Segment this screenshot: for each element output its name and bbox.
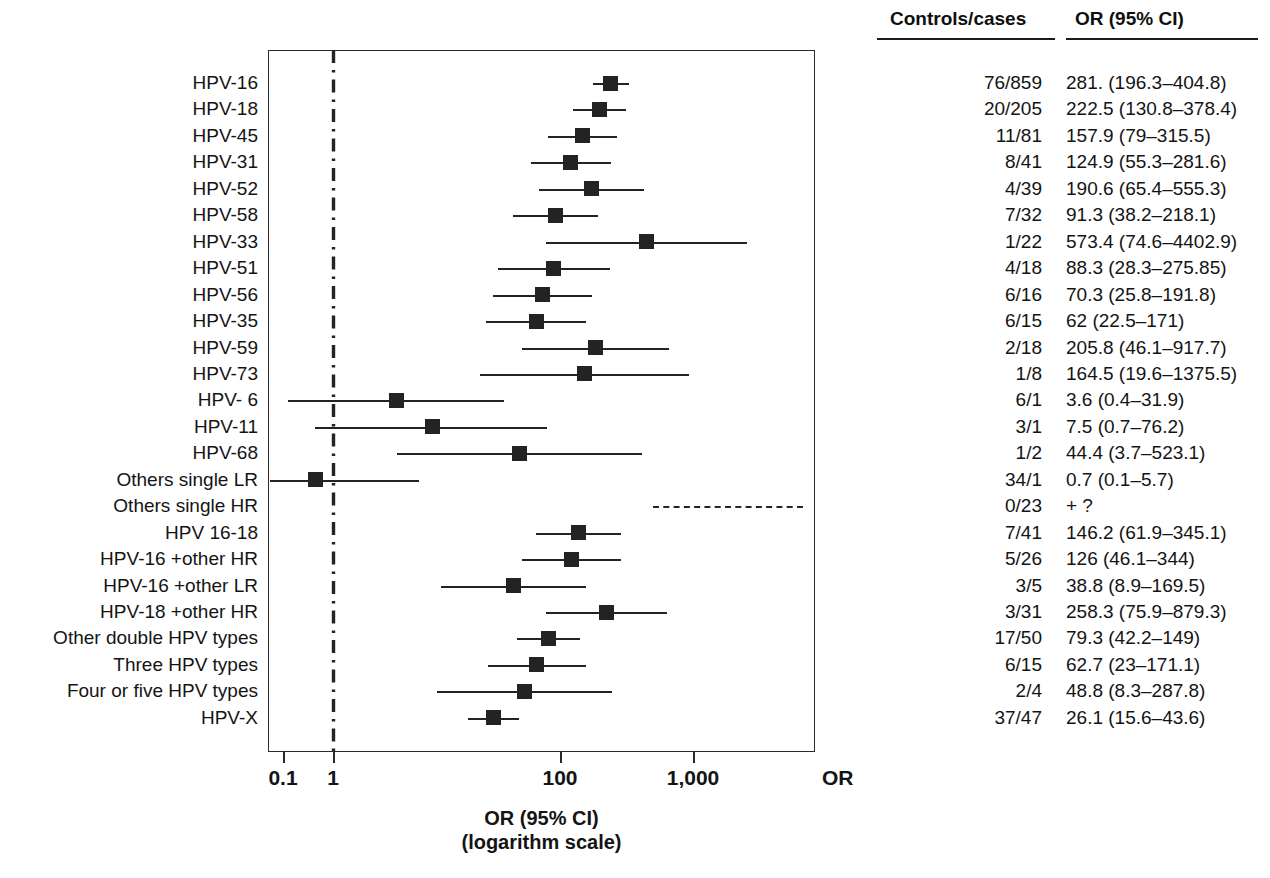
or-ci-cell: 44.4 (3.7–523.1) bbox=[1066, 443, 1205, 462]
x-axis-tick bbox=[560, 752, 562, 763]
point-estimate-marker bbox=[529, 657, 544, 672]
or-ci-cell: 3.6 (0.4–31.9) bbox=[1066, 390, 1184, 409]
or-ci-cell: 26.1 (15.6–43.6) bbox=[1066, 708, 1205, 727]
row-label: HPV-51 bbox=[193, 258, 258, 277]
or-ci-cell: + ? bbox=[1066, 496, 1093, 515]
row-label: HPV-18 bbox=[193, 99, 258, 118]
controls-cases-cell: 4/39 bbox=[877, 179, 1042, 198]
point-estimate-marker bbox=[639, 234, 654, 249]
point-estimate-marker bbox=[563, 155, 578, 170]
axis-title-line-1: OR (95% CI) bbox=[268, 806, 815, 830]
controls-cases-cell: 3/31 bbox=[877, 602, 1042, 621]
row-label: HPV-18 +other HR bbox=[100, 602, 258, 621]
or-ci-cell: 157.9 (79–315.5) bbox=[1066, 126, 1211, 145]
row-label: HPV-58 bbox=[193, 205, 258, 224]
or-ci-cell: 48.8 (8.3–287.8) bbox=[1066, 681, 1205, 700]
row-label: HPV 16-18 bbox=[165, 523, 258, 542]
point-estimate-marker bbox=[546, 261, 561, 276]
ci-line-undefined bbox=[653, 506, 803, 508]
x-axis-tick bbox=[283, 752, 285, 763]
row-label: HPV-52 bbox=[193, 179, 258, 198]
x-axis-tick-label: 1,000 bbox=[667, 766, 720, 790]
or-ci-cell: 205.8 (46.1–917.7) bbox=[1066, 338, 1227, 357]
point-estimate-marker bbox=[517, 684, 532, 699]
x-axis-tick-label: 0.1 bbox=[268, 766, 297, 790]
controls-cases-cell: 37/47 bbox=[877, 708, 1042, 727]
controls-cases-cell: 1/8 bbox=[877, 364, 1042, 383]
axis-title: OR (95% CI) (logarithm scale) bbox=[268, 806, 815, 854]
axis-title-line-2: (logarithm scale) bbox=[268, 830, 815, 854]
or-ci-cell: 281. (196.3–404.8) bbox=[1066, 73, 1227, 92]
point-estimate-marker bbox=[425, 419, 440, 434]
point-estimate-marker bbox=[486, 710, 501, 725]
or-ci-cell: 190.6 (65.4–555.3) bbox=[1066, 179, 1227, 198]
row-label: HPV-59 bbox=[193, 338, 258, 357]
point-estimate-marker bbox=[588, 340, 603, 355]
row-label: HPV-68 bbox=[193, 443, 258, 462]
row-label: HPV-33 bbox=[193, 232, 258, 251]
row-label: HPV-31 bbox=[193, 152, 258, 171]
or-ci-cell: 222.5 (130.8–378.4) bbox=[1066, 99, 1237, 118]
point-estimate-marker bbox=[506, 578, 521, 593]
or-ci-cell: 79.3 (42.2–149) bbox=[1066, 628, 1200, 647]
point-estimate-marker bbox=[541, 631, 556, 646]
or-ci-cell: 126 (46.1–344) bbox=[1066, 549, 1195, 568]
controls-header-rule bbox=[877, 38, 1055, 40]
controls-cases-cell: 2/18 bbox=[877, 338, 1042, 357]
point-estimate-marker bbox=[575, 128, 590, 143]
x-axis-tick-label: 1 bbox=[327, 766, 339, 790]
controls-cases-cell: 1/2 bbox=[877, 443, 1042, 462]
row-label: HPV-X bbox=[201, 708, 258, 727]
row-label: HPV-16 +other LR bbox=[103, 576, 258, 595]
controls-cases-cell: 17/50 bbox=[877, 628, 1042, 647]
point-estimate-marker bbox=[512, 446, 527, 461]
row-label: HPV-11 bbox=[194, 417, 258, 436]
row-label: HPV-56 bbox=[193, 285, 258, 304]
or-ci-cell: 164.5 (19.6–1375.5) bbox=[1066, 364, 1237, 383]
or-ci-cell: 62 (22.5–171) bbox=[1066, 311, 1184, 330]
controls-cases-cell: 11/81 bbox=[877, 126, 1042, 145]
controls-cases-cell: 3/5 bbox=[877, 576, 1042, 595]
controls-cases-cell: 6/15 bbox=[877, 311, 1042, 330]
or-ci-cell: 258.3 (75.9–879.3) bbox=[1066, 602, 1227, 621]
or-ci-cell: 124.9 (55.3–281.6) bbox=[1066, 152, 1227, 171]
point-estimate-marker bbox=[308, 472, 323, 487]
or-ci-cell: 38.8 (8.9–169.5) bbox=[1066, 576, 1205, 595]
or-ci-cell: 70.3 (25.8–191.8) bbox=[1066, 285, 1216, 304]
row-label-column: HPV-16HPV-18HPV-45HPV-31HPV-52HPV-58HPV-… bbox=[0, 0, 258, 878]
controls-cases-cell: 7/41 bbox=[877, 523, 1042, 542]
controls-cases-cell: 4/18 bbox=[877, 258, 1042, 277]
row-label: Other double HPV types bbox=[53, 628, 258, 647]
point-estimate-marker bbox=[571, 525, 586, 540]
row-label: HPV-16 bbox=[193, 73, 258, 92]
point-estimate-marker bbox=[564, 552, 579, 567]
controls-cases-cell: 2/4 bbox=[877, 681, 1042, 700]
controls-cases-cell: 6/1 bbox=[877, 390, 1042, 409]
reference-line-or-1 bbox=[331, 50, 336, 752]
or-header-rule bbox=[1066, 38, 1258, 40]
point-estimate-marker bbox=[548, 208, 563, 223]
or-ci-cell: 62.7 (23–171.1) bbox=[1066, 655, 1200, 674]
controls-cases-cell: 34/1 bbox=[877, 470, 1042, 489]
controls-cases-header: Controls/cases bbox=[890, 8, 1026, 30]
or-ci-cell: 573.4 (74.6–4402.9) bbox=[1066, 232, 1237, 251]
row-label: Three HPV types bbox=[113, 655, 258, 674]
row-label: HPV- 6 bbox=[198, 390, 258, 409]
controls-cases-cell: 3/1 bbox=[877, 417, 1042, 436]
controls-cases-cell: 7/32 bbox=[877, 205, 1042, 224]
row-label: Four or five HPV types bbox=[67, 681, 258, 700]
row-label: HPV-35 bbox=[193, 311, 258, 330]
point-estimate-marker bbox=[592, 102, 607, 117]
axis-or-mark-label: OR bbox=[822, 766, 854, 790]
point-estimate-marker bbox=[389, 393, 404, 408]
row-label: HPV-45 bbox=[193, 126, 258, 145]
or-ci-cell: 91.3 (38.2–218.1) bbox=[1066, 205, 1216, 224]
row-label: HPV-73 bbox=[193, 364, 258, 383]
or-ci-cell: 146.2 (61.9–345.1) bbox=[1066, 523, 1227, 542]
row-label: Others single HR bbox=[113, 496, 258, 515]
or-ci-cell: 7.5 (0.7–76.2) bbox=[1066, 417, 1184, 436]
x-axis-tick-label: 100 bbox=[542, 766, 577, 790]
point-estimate-marker bbox=[529, 314, 544, 329]
or-ci-cell: 0.7 (0.1–5.7) bbox=[1066, 470, 1174, 489]
point-estimate-marker bbox=[535, 287, 550, 302]
